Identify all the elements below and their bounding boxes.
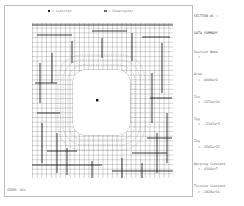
summary-item: Torsion Constant= .1828e+16 — [194, 184, 244, 195]
summary-title-line2: DATA SUMMARY — [194, 31, 244, 37]
shear-center-marker-icon — [104, 10, 107, 13]
centroid-point-icon — [96, 99, 98, 101]
legend-centroid: = Centroid — [48, 9, 71, 13]
section-mesh — [32, 23, 173, 178]
legend-centroid-label: = Centroid — [52, 9, 71, 13]
summary-item: Section Name= — [194, 50, 244, 61]
zoom-status: ZOOM: ALL — [7, 188, 26, 192]
summary-item: Area= .0008e+2 — [194, 72, 244, 83]
legend-shear-center: = Shearcenter — [104, 9, 133, 13]
data-summary-panel: SECTION #1 : DATA SUMMARY Section Name= … — [194, 3, 244, 206]
summary-title-line1: SECTION #1 : — [194, 14, 244, 20]
legend-shear-center-label: = Shearcenter — [109, 9, 134, 13]
summary-item: Ixy= .3505e+15 — [194, 139, 244, 150]
summary-item: Warping Constant= .4368e+7 — [194, 162, 244, 173]
centroid-marker-icon — [48, 10, 50, 12]
summary-item: Iyy= -.5103e+5 — [194, 117, 244, 128]
summary-item: Ixx= .1276e+16 — [194, 95, 244, 106]
